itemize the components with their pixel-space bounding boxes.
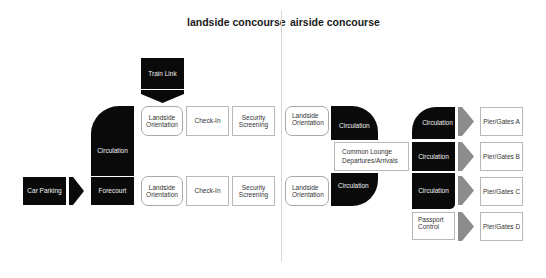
security-screening-bottom: Security Screening bbox=[232, 176, 275, 206]
pier-gates-c: Pier/Gates C bbox=[480, 177, 523, 206]
airside-circulation-bottom: Circulation bbox=[331, 173, 378, 206]
pier-c-circulation: Circulation bbox=[412, 173, 455, 209]
check-in-label: Check-In bbox=[194, 117, 220, 124]
security-label: Security Screening bbox=[239, 114, 268, 129]
car-parking-block: Car Parking bbox=[23, 177, 66, 205]
forecourt-block: Forecourt bbox=[91, 177, 134, 205]
landside-concourse-title: landside concourse bbox=[187, 16, 286, 28]
pier-gates-label: Pier/Gates B bbox=[483, 153, 520, 160]
orientation-label: Landside Orientation bbox=[146, 114, 178, 129]
airside-orientation-bottom: Landside Orientation bbox=[285, 176, 329, 206]
passport-control-label: Passport Control bbox=[418, 217, 444, 230]
passport-control-box: Passport Control bbox=[412, 212, 455, 240]
car-parking-label: Car Parking bbox=[27, 187, 61, 194]
airside-circulation-top: Circulation bbox=[331, 106, 378, 140]
orientation-label: Landside Orientation bbox=[146, 184, 178, 199]
common-lounge-label: Common Lounge Departures/Arrivals bbox=[342, 148, 398, 166]
landside-orientation-top: Landside Orientation bbox=[141, 106, 183, 136]
landside-circulation-label: Circulation bbox=[97, 147, 128, 154]
check-in-label: Check-In bbox=[194, 187, 220, 194]
check-in-bottom: Check-In bbox=[186, 176, 229, 206]
pier-gates-b: Pier/Gates B bbox=[480, 142, 523, 171]
concourse-divider bbox=[281, 10, 282, 262]
circulation-label: Circulation bbox=[418, 187, 449, 194]
gray-arrow-icon bbox=[458, 142, 475, 171]
pier-gates-d: Pier/Gates D bbox=[480, 212, 523, 241]
circulation-label: Circulation bbox=[338, 182, 369, 189]
pier-b-circulation: Circulation bbox=[412, 142, 455, 171]
down-arrow-icon bbox=[141, 90, 184, 104]
right-arrow-icon bbox=[69, 177, 84, 205]
security-screening-top: Security Screening bbox=[232, 106, 275, 136]
landside-circulation-block: Circulation bbox=[91, 106, 134, 176]
security-label: Security Screening bbox=[239, 184, 268, 199]
pier-gates-label: Pier/Gates C bbox=[483, 188, 520, 195]
check-in-top: Check-In bbox=[186, 106, 229, 136]
gray-arrow-icon bbox=[458, 176, 475, 205]
forecourt-label: Forecourt bbox=[99, 187, 127, 194]
circulation-label: Circulation bbox=[422, 119, 453, 126]
landside-orientation-bottom: Landside Orientation bbox=[141, 176, 183, 206]
circulation-label: Circulation bbox=[339, 122, 370, 129]
orientation-label: Landside Orientation bbox=[292, 112, 324, 127]
airside-orientation-top: Landside Orientation bbox=[285, 106, 329, 136]
pier-gates-a: Pier/Gates A bbox=[480, 107, 523, 136]
pier-gates-label: Pier/Gates D bbox=[483, 223, 520, 230]
pier-gates-label: Pier/Gates A bbox=[483, 118, 520, 125]
gray-arrow-icon bbox=[458, 107, 475, 136]
train-link-block: Train Link bbox=[141, 58, 184, 89]
common-lounge-box: Common Lounge Departures/Arrivals bbox=[334, 142, 409, 171]
pier-a-circulation: Circulation bbox=[412, 107, 455, 139]
airside-concourse-title: airside concourse bbox=[290, 16, 380, 28]
train-link-label: Train Link bbox=[148, 70, 176, 77]
circulation-label: Circulation bbox=[418, 153, 449, 160]
orientation-label: Landside Orientation bbox=[292, 184, 324, 199]
gray-arrow-icon bbox=[458, 212, 475, 241]
